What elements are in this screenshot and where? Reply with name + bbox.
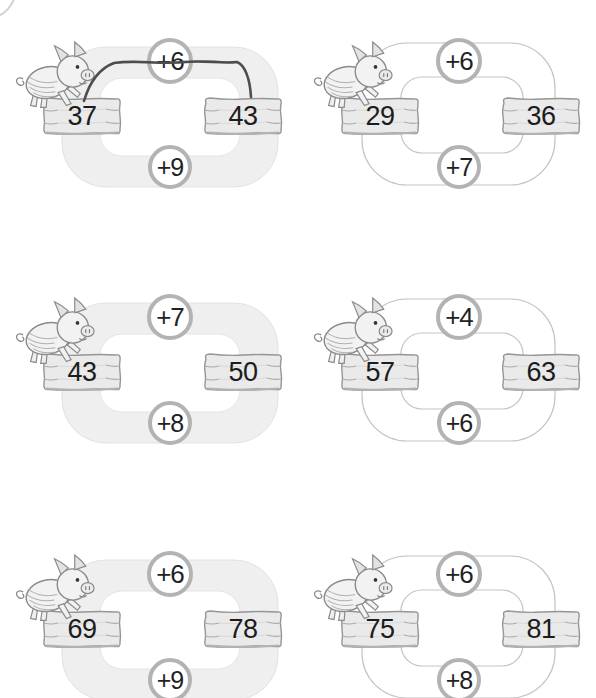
pig-icon: [312, 40, 404, 114]
number-sign-right: 50: [203, 352, 283, 393]
bottom-operation-circle: +7: [437, 145, 481, 189]
puzzle-panel-6: 75 81 +6 +8: [298, 513, 596, 698]
top-operation-circle: +6: [436, 38, 482, 84]
pig-icon: [312, 553, 404, 627]
pig-icon: [14, 40, 106, 114]
top-operation-circle: +6: [147, 38, 193, 84]
number-sign-right: 43: [203, 96, 283, 137]
number-sign-right: 81: [501, 609, 581, 650]
target-number: 43: [228, 101, 257, 132]
number-sign-right: 63: [501, 352, 581, 393]
top-operation-circle: +6: [147, 551, 193, 597]
bottom-operation-label: +9: [157, 666, 184, 695]
worksheet-page: 37 43 +6 +9 29 36 +6 +7: [0, 0, 596, 698]
target-number: 50: [228, 357, 257, 388]
top-operation-label: +6: [445, 46, 473, 77]
top-operation-circle: +4: [436, 294, 482, 340]
bottom-operation-label: +8: [446, 666, 473, 695]
bottom-operation-circle: +9: [148, 658, 192, 698]
top-operation-label: +6: [445, 559, 473, 590]
bottom-operation-label: +8: [157, 409, 184, 438]
top-operation-label: +6: [156, 46, 184, 77]
puzzle-panel-3: 43 50 +7 +8: [0, 256, 298, 496]
pig-icon: [14, 553, 106, 627]
target-number: 78: [228, 614, 257, 645]
bottom-operation-circle: +9: [148, 145, 192, 189]
puzzle-panel-1: 37 43 +6 +9: [0, 0, 298, 240]
number-sign-right: 36: [501, 96, 581, 137]
puzzle-panel-5: 69 78 +6 +9: [0, 513, 298, 698]
top-operation-circle: +7: [147, 294, 193, 340]
target-number: 63: [526, 357, 555, 388]
top-operation-label: +6: [156, 559, 184, 590]
bottom-operation-circle: +6: [437, 401, 481, 445]
pig-icon: [312, 296, 404, 370]
top-operation-label: +4: [445, 302, 473, 333]
bottom-operation-label: +6: [446, 409, 473, 438]
number-sign-right: 78: [203, 609, 283, 650]
pig-icon: [14, 296, 106, 370]
top-operation-circle: +6: [436, 551, 482, 597]
puzzle-panel-2: 29 36 +6 +7: [298, 0, 596, 240]
top-operation-label: +7: [156, 302, 184, 333]
bottom-operation-circle: +8: [437, 658, 481, 698]
bottom-operation-label: +9: [157, 153, 184, 182]
target-number: 36: [526, 101, 555, 132]
puzzle-panel-4: 57 63 +4 +6: [298, 256, 596, 496]
target-number: 81: [526, 614, 555, 645]
bottom-operation-circle: +8: [148, 401, 192, 445]
bottom-operation-label: +7: [446, 153, 473, 182]
